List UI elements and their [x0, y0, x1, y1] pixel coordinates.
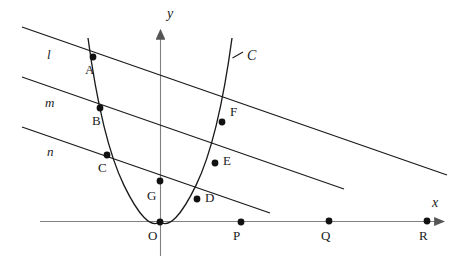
- label-axis-x: x: [432, 196, 438, 210]
- label-axis-y: y: [167, 7, 173, 21]
- label-curve-c: C: [247, 49, 256, 63]
- point-O: [157, 219, 164, 226]
- point-A: [90, 54, 97, 61]
- line-n: [22, 127, 270, 213]
- point-D: [194, 196, 201, 203]
- label-point-c: C: [98, 161, 107, 174]
- label-line-n: n: [47, 145, 54, 158]
- geometry-figure: [0, 0, 466, 266]
- label-point-a: A: [85, 63, 94, 76]
- label-point-o: O: [148, 229, 157, 242]
- point-G: [157, 178, 164, 185]
- line-l: [22, 27, 447, 175]
- label-point-b: B: [92, 114, 101, 127]
- label-point-e: E: [223, 154, 231, 167]
- line-m: [22, 77, 344, 189]
- label-point-g: G: [147, 189, 156, 202]
- label-point-p: P: [233, 229, 240, 242]
- label-line-m: m: [45, 96, 54, 109]
- point-C: [104, 152, 111, 159]
- label-point-d: D: [205, 191, 214, 204]
- label-point-f: F: [230, 105, 237, 118]
- curve-label-leader: [233, 52, 244, 58]
- label-point-q: Q: [321, 229, 330, 242]
- point-E: [212, 160, 219, 167]
- label-point-r: R: [419, 229, 428, 242]
- label-line-l: l: [47, 48, 51, 61]
- point-Q: [326, 218, 333, 225]
- point-P: [238, 219, 245, 226]
- point-F: [219, 119, 226, 126]
- point-B: [97, 105, 104, 112]
- point-R: [424, 218, 431, 225]
